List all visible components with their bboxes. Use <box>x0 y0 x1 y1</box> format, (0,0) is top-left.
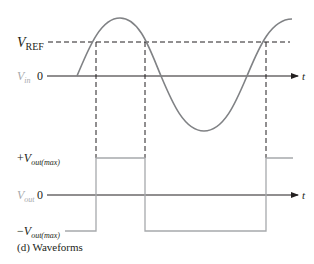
pos-vout-max-label: +Vout(max) <box>17 151 60 167</box>
vout-time-label: t <box>302 189 306 201</box>
vin-label: Vin <box>17 69 31 85</box>
figure-caption: (d) Waveforms <box>17 241 83 254</box>
vout-label: Vout <box>17 188 35 204</box>
vref-label: VREF <box>17 35 44 52</box>
vin-time-label: t <box>302 70 306 82</box>
vin-zero-label: 0 <box>37 69 43 83</box>
neg-vout-max-label: −Vout(max) <box>17 224 60 240</box>
vout-zero-label: 0 <box>37 188 43 202</box>
vin-sine-wave <box>77 18 292 131</box>
waveform-diagram: VREF Vin 0 t +Vout(max) Vout 0 t −Vout(m… <box>0 0 314 264</box>
